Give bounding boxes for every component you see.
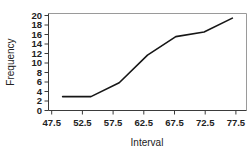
- x-tick-label: 77.5: [227, 117, 246, 128]
- x-axis-title: Interval: [131, 137, 164, 148]
- x-tick-label: 62.5: [135, 117, 154, 128]
- x-tick-labels: 47.5 52.5 57.5 62.5 67.5 72.5 77.5: [42, 117, 245, 128]
- y-tick-label: 20: [31, 10, 42, 21]
- y-tick-label: 4: [37, 86, 43, 97]
- chart-container: 0 2 4 6 8 10 12 14 16 18 20 47.5 52.5 57…: [0, 0, 251, 151]
- x-tick-label: 57.5: [104, 117, 123, 128]
- y-tick-marks: [45, 16, 49, 111]
- y-axis-title: Frequency: [5, 38, 16, 85]
- x-tick-label: 47.5: [42, 117, 61, 128]
- y-tick-labels: 0 2 4 6 8 10 12 14 16 18 20: [31, 10, 42, 116]
- y-tick-label: 12: [31, 48, 42, 59]
- y-tick-label: 18: [31, 19, 42, 30]
- y-tick-label: 2: [37, 95, 42, 106]
- frequency-line-chart: 0 2 4 6 8 10 12 14 16 18 20 47.5 52.5 57…: [0, 0, 251, 151]
- x-tick-label: 72.5: [196, 117, 215, 128]
- x-tick-label: 67.5: [165, 117, 184, 128]
- y-tick-label: 6: [37, 76, 42, 87]
- y-tick-label: 10: [31, 57, 42, 68]
- x-tick-label: 52.5: [73, 117, 92, 128]
- y-tick-label: 0: [37, 105, 42, 116]
- data-series-line: [63, 18, 233, 97]
- y-tick-label: 8: [37, 67, 42, 78]
- y-tick-label: 14: [31, 38, 42, 49]
- y-tick-label: 16: [31, 29, 42, 40]
- x-tick-marks: [52, 111, 236, 115]
